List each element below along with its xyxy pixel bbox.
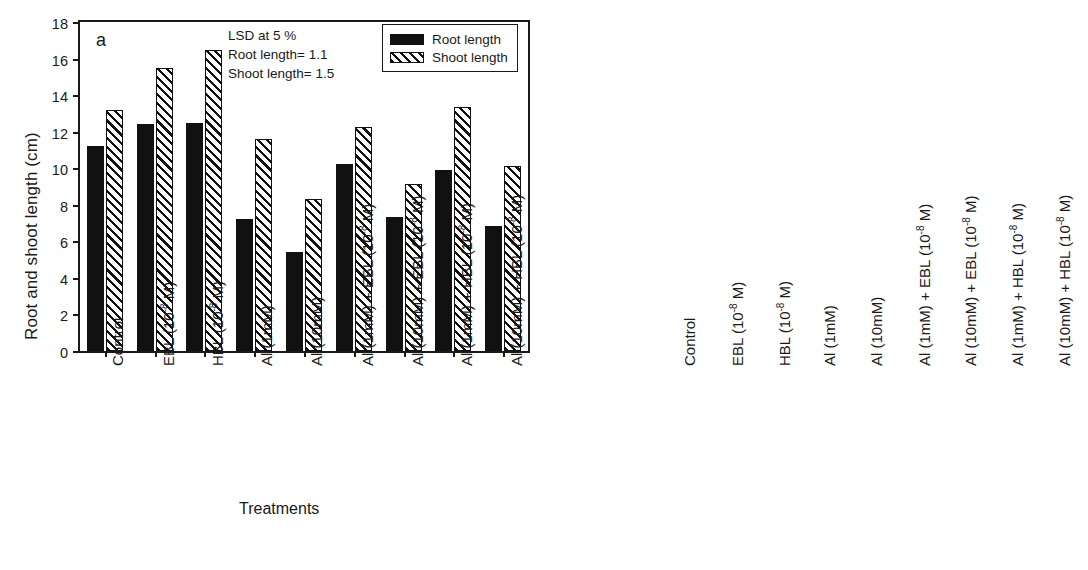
b-xcat-6: Al (10mM) + EBL (10-8 M) (961, 196, 979, 367)
panel-a: Root and shoot length (cm) a LSD at 5 %R… (0, 0, 544, 570)
b-xcat-1: EBL (10-8 M) (728, 282, 746, 366)
y-a-ticklabel-8: 8 (60, 198, 68, 214)
a-xtick-1 (155, 351, 157, 357)
a-xtick-5 (354, 351, 356, 357)
y-a-tick-8: 8 (73, 205, 80, 207)
y-a-tick-14: 14 (73, 95, 80, 97)
a-group-0 (80, 22, 130, 351)
y-a-tick-4: 4 (73, 278, 80, 280)
b-xcat-0: Control (681, 318, 698, 366)
a-bar-4-0[interactable] (286, 252, 303, 351)
a-xcat-7: Al (1mM) + HBL (10-8 M) (457, 203, 475, 366)
y-a-tick-18: 18 (73, 22, 80, 24)
panel-b: Shoot and root fresh and dry mass (mg) b… (544, 0, 1088, 570)
a-bar-3-0[interactable] (236, 219, 253, 351)
a-bar-0-0[interactable] (87, 146, 104, 351)
a-xtick-6 (404, 351, 406, 357)
y-a-ticklabel-18: 18 (52, 16, 68, 32)
y-a-ticklabel-10: 10 (52, 162, 68, 178)
b-xcat-2: HBL (10-8 M) (775, 281, 793, 366)
a-xcat-8: Al (10mM) + HBL (10-8 M) (507, 195, 525, 366)
a-bar-1-0[interactable] (137, 124, 154, 351)
y-a-ticklabel-12: 12 (52, 125, 68, 141)
a-xcat-0: Control (109, 318, 126, 366)
y-axis-label-a: Root and shoot length (cm) (22, 132, 42, 340)
a-xcat-2: HBL (10-8 M) (208, 281, 226, 366)
y-a-tick-12: 12 (73, 132, 80, 134)
y-a-ticklabel-6: 6 (60, 235, 68, 251)
a-xtick-3 (254, 351, 256, 357)
a-xtick-2 (204, 351, 206, 357)
figure-root: Root and shoot length (cm) a LSD at 5 %R… (0, 0, 1088, 570)
a-xtick-4 (304, 351, 306, 357)
b-xcat-4: Al (10mM) (868, 297, 885, 366)
y-a-tick-10: 10 (73, 168, 80, 170)
y-a-tick-2: 2 (73, 314, 80, 316)
y-a-ticklabel-16: 16 (52, 52, 68, 68)
a-bar-6-0[interactable] (386, 217, 403, 351)
a-bar-8-0[interactable] (485, 226, 502, 351)
b-xcat-5: Al (1mM) + EBL (10-8 M) (915, 204, 933, 366)
y-a-ticklabel-2: 2 (60, 308, 68, 324)
a-group-3 (229, 22, 279, 351)
y-a-ticklabel-4: 4 (60, 272, 68, 288)
a-xcat-3: Al (1mM) (258, 305, 275, 366)
a-xtick-7 (453, 351, 455, 357)
b-xcat-7: Al (1mM) + HBL (10-8 M) (1008, 203, 1026, 366)
y-a-tick-16: 16 (73, 59, 80, 61)
y-a-tick-0: 0 (73, 351, 80, 353)
y-a-tick-6: 6 (73, 241, 80, 243)
b-xcat-3: Al (1mM) (821, 305, 838, 366)
b-xcat-8: Al (10mM) + HBL (10-8 M) (1055, 195, 1073, 366)
x-axis-title-a: Treatments (239, 500, 319, 518)
a-xcat-6: Al (10mM) + EBL (10-8 M) (408, 196, 426, 367)
a-bar-5-0[interactable] (336, 164, 353, 351)
y-a-ticklabel-14: 14 (52, 89, 68, 105)
a-xtick-0 (105, 351, 107, 357)
a-xcat-4: Al (10mM) (308, 297, 325, 366)
a-xcat-1: EBL (10-8 M) (159, 282, 177, 366)
a-xcat-5: Al (1mM) + EBL (10-8 M) (358, 204, 376, 366)
a-xtick-8 (503, 351, 505, 357)
y-a-ticklabel-0: 0 (60, 345, 68, 361)
a-bar-7-0[interactable] (435, 170, 452, 351)
a-bar-0-1[interactable] (106, 110, 123, 351)
a-bar-2-0[interactable] (186, 123, 203, 351)
